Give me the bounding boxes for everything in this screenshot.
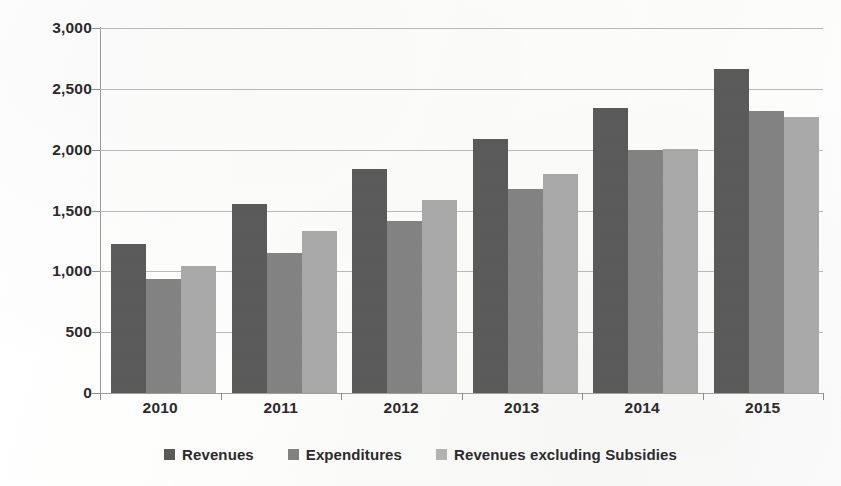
bar-group [100, 28, 221, 393]
y-axis-tick-mark [92, 28, 100, 29]
y-axis-tick-label: 1,500 [6, 202, 92, 220]
x-axis-tick-label: 2015 [745, 399, 780, 417]
bar [302, 231, 337, 393]
x-axis-tick-label: 2010 [143, 399, 178, 417]
x-axis-tick-label: 2013 [504, 399, 539, 417]
y-axis-tick-mark [92, 271, 100, 272]
bar-group [703, 28, 824, 393]
bar-group [582, 28, 703, 393]
y-axis-tick-label: 500 [6, 323, 92, 341]
x-axis-tick-mark [703, 393, 704, 400]
x-axis-tick-mark [341, 393, 342, 400]
bar [593, 108, 628, 393]
y-axis-tick-mark [92, 332, 100, 333]
y-axis-labels: 05001,0001,5002,0002,5003,000 [0, 0, 92, 486]
bar [663, 149, 698, 393]
x-axis-tick-mark [100, 393, 101, 400]
legend-item[interactable]: Revenues excluding Subsidies [436, 446, 677, 463]
x-axis-tick-mark [823, 393, 824, 400]
bar [232, 204, 267, 393]
chart-legend: RevenuesExpendituresRevenues excluding S… [0, 446, 841, 463]
x-axis-tick-mark [221, 393, 222, 400]
x-axis-tick-mark [462, 393, 463, 400]
bar [714, 69, 749, 393]
y-axis-tick-mark [92, 393, 100, 394]
bar-chart: 05001,0001,5002,0002,5003,000 2010201120… [0, 0, 841, 486]
bar-series-container [100, 28, 823, 393]
y-axis-tick-mark [92, 150, 100, 151]
legend-label: Revenues [182, 446, 254, 463]
y-axis-tick-label: 3,000 [6, 19, 92, 37]
legend-swatch-icon [164, 449, 175, 460]
plot-area [100, 28, 823, 393]
y-axis-tick-label: 0 [6, 384, 92, 402]
x-axis-tick-mark [582, 393, 583, 400]
legend-item[interactable]: Revenues [164, 446, 254, 463]
y-axis-tick-label: 2,000 [6, 141, 92, 159]
bar-group [341, 28, 462, 393]
bar-group [462, 28, 583, 393]
bar [352, 169, 387, 393]
legend-swatch-icon [436, 449, 447, 460]
bar [422, 200, 457, 393]
y-axis-tick-label: 1,000 [6, 262, 92, 280]
bar [543, 174, 578, 393]
bar [784, 117, 819, 393]
bar-group [221, 28, 342, 393]
bar [267, 253, 302, 393]
legend-swatch-icon [288, 449, 299, 460]
bar [387, 221, 422, 393]
bar [146, 279, 181, 393]
y-axis-tick-mark [92, 89, 100, 90]
x-axis-tick-label: 2014 [625, 399, 660, 417]
bar [473, 139, 508, 393]
bar [628, 150, 663, 393]
bar [111, 244, 146, 393]
x-axis-tick-label: 2011 [264, 399, 298, 417]
bar [181, 266, 216, 393]
legend-item[interactable]: Expenditures [288, 446, 402, 463]
x-axis-tick-label: 2012 [384, 399, 419, 417]
bar [508, 189, 543, 393]
legend-label: Expenditures [306, 446, 402, 463]
y-axis-tick-label: 2,500 [6, 80, 92, 98]
legend-label: Revenues excluding Subsidies [454, 446, 677, 463]
bar [749, 111, 784, 393]
y-axis-tick-mark [92, 211, 100, 212]
